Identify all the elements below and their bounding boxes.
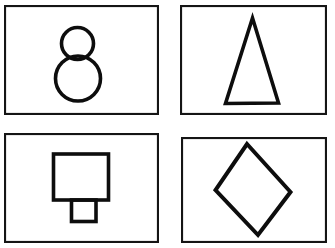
panel-bottom-right-canvas [181,137,327,243]
panel-bottom-right [181,137,327,243]
panel-top-right-canvas [180,5,327,115]
shape-figure-grid [0,0,335,248]
panel-border [5,134,158,242]
panel-bottom-left-canvas [4,133,159,243]
panel-top-left-canvas [4,5,159,115]
panel-bottom-left [4,133,159,243]
panel-top-left [4,5,159,115]
panel-top-right [180,5,327,115]
